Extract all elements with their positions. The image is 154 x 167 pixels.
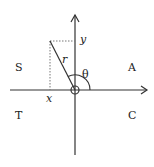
x-label: x xyxy=(46,93,52,104)
cast-diagram: S A T C y x r θ xyxy=(0,0,154,167)
axes-drawing xyxy=(0,0,154,167)
theta-label: θ xyxy=(82,69,89,80)
quadrant-label-s: S xyxy=(15,62,23,73)
y-label: y xyxy=(80,34,86,45)
r-label: r xyxy=(62,54,67,65)
quadrant-label-c: C xyxy=(128,110,136,121)
quadrant-label-a: A xyxy=(128,62,136,73)
quadrant-label-t: T xyxy=(15,110,22,121)
